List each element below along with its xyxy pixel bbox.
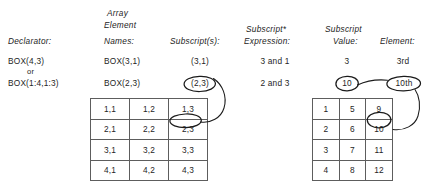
circle-annotation-left-grid-cell [170, 114, 201, 128]
connector-subscript-to-grid [201, 79, 226, 123]
circle-annotation-element [387, 76, 421, 91]
annotation-overlay [0, 0, 428, 183]
connector-element-to-grid [393, 90, 420, 130]
circle-annotation-right-grid-cell [367, 112, 391, 128]
circle-annotation-subscript [184, 76, 215, 91]
circle-annotation-subscript-value [336, 76, 358, 91]
connector-value-to-element [358, 80, 388, 85]
figure-canvas: Declarator: Array Element Names: Subscri… [0, 0, 428, 183]
